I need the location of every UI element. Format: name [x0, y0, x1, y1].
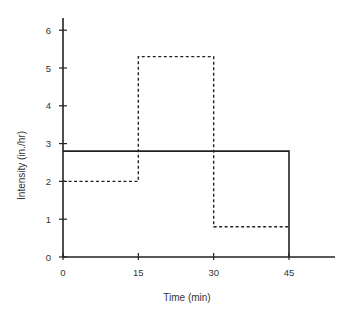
- series-solid: [63, 151, 289, 257]
- y-tick-label: 4: [46, 100, 51, 111]
- axes: [59, 18, 335, 260]
- y-tick-label: 5: [46, 63, 51, 74]
- y-tick-label: 2: [46, 176, 51, 187]
- step-chart: 01234560153045Time (min)Intensity (in./h…: [0, 0, 353, 320]
- x-tick-label: 15: [133, 267, 144, 278]
- y-axis-title: Intensity (in./hr): [16, 131, 27, 200]
- y-tick-label: 6: [46, 25, 51, 36]
- labels-layer: 01234560153045Time (min)Intensity (in./h…: [16, 25, 294, 303]
- x-tick-label: 30: [208, 267, 219, 278]
- series-layer: [63, 57, 289, 257]
- y-tick-label: 1: [46, 214, 51, 225]
- y-tick-label: 3: [46, 138, 51, 149]
- y-tick-label: 0: [46, 252, 51, 263]
- x-axis-title: Time (min): [163, 292, 210, 303]
- series-dashed: [63, 57, 289, 227]
- x-tick-label: 0: [60, 267, 65, 278]
- x-tick-label: 45: [284, 267, 295, 278]
